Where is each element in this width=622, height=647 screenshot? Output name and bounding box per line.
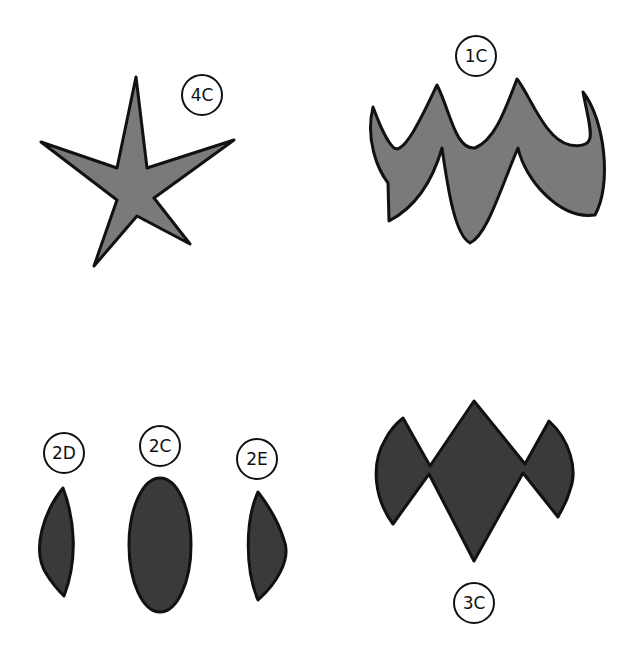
label-2c: 2C xyxy=(139,425,181,467)
shape-1c-crown xyxy=(371,79,605,243)
label-1c: 1C xyxy=(455,35,497,77)
shape-2c-ellipse xyxy=(129,478,191,612)
shape-2e-lens xyxy=(248,492,286,600)
label-4c: 4C xyxy=(181,74,223,116)
shapes-canvas xyxy=(0,0,622,647)
label-2d: 2D xyxy=(43,432,85,474)
label-3c: 3C xyxy=(453,582,495,624)
label-2e: 2E xyxy=(236,438,278,480)
shape-2d-lens xyxy=(40,488,74,596)
shape-3c-bowtie xyxy=(376,401,573,561)
